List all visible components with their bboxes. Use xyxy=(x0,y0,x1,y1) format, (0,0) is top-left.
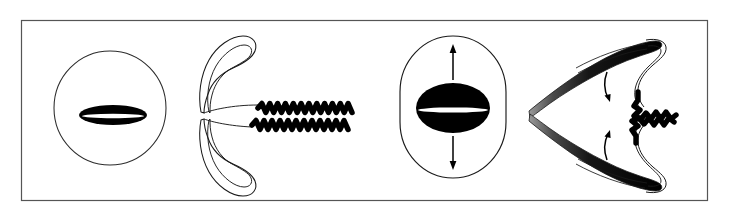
nucleus-slit-highlight xyxy=(418,107,488,112)
nucleus-slit-highlight xyxy=(82,114,144,118)
figure-container: Sperm cell head shape and flagellar conf… xyxy=(0,0,729,217)
diagram-canvas xyxy=(0,0,729,217)
